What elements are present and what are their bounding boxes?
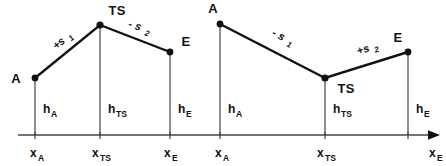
point-marker-e	[405, 49, 412, 56]
height-label-e-group: h E	[178, 102, 192, 119]
right-diagram: A TS E - s 1 +s 2 h A h TS h	[208, 1, 443, 163]
height-label-a-group: h A	[228, 102, 242, 119]
point-marker-e	[167, 49, 174, 56]
point-label-ts: TS	[337, 81, 354, 96]
point-label-a: A	[11, 71, 21, 86]
height-label-e: h	[178, 102, 185, 116]
xtick-label-ts: x	[317, 146, 324, 160]
profile-curve	[220, 24, 408, 78]
xtick-label-a: x	[215, 146, 222, 160]
height-label-ts-subscript: TS	[341, 109, 352, 119]
slope-label-s1-group: +s 1	[50, 28, 77, 54]
point-marker-a	[217, 21, 224, 28]
point-label-a: A	[208, 1, 218, 16]
xtick-label-ts-subscript: TS	[100, 153, 111, 163]
left-diagram: A TS E +s 1 - s 2 h A h TS h	[11, 3, 192, 163]
xtick-label-ts-group: x TS	[317, 146, 336, 163]
height-label-ts-group: h TS	[333, 102, 352, 119]
slope-label-s2-subscript: 2	[372, 45, 380, 55]
height-label-a: h	[43, 102, 50, 116]
slope-label-s1-group: - s 1	[269, 26, 296, 50]
height-label-a-subscript: A	[51, 109, 57, 119]
slope-label-s1-subscript: 1	[285, 40, 294, 50]
xtick-label-ts-group: x TS	[92, 146, 111, 163]
xtick-label-a-group: x A	[215, 146, 229, 163]
height-label-e-subscript: E	[424, 109, 430, 119]
slope-label-s2: - s	[127, 18, 143, 33]
height-label-e-subscript: E	[186, 109, 192, 119]
point-label-ts: TS	[108, 3, 125, 18]
xtick-label-e-group: x E	[429, 146, 443, 163]
height-label-e: h	[416, 102, 423, 116]
height-label-a: h	[228, 102, 235, 116]
height-label-a-subscript: A	[236, 109, 242, 119]
xtick-label-a: x	[30, 146, 37, 160]
slope-label-s1: - s	[270, 26, 287, 43]
xtick-label-e-group: x E	[164, 146, 178, 163]
baseline-axis	[18, 130, 440, 140]
point-marker-ts	[96, 21, 103, 28]
xtick-label-ts-subscript: TS	[325, 153, 336, 163]
xtick-label-a-group: x A	[30, 146, 44, 163]
xtick-label-a-subscript: A	[38, 153, 44, 163]
point-label-e: E	[394, 30, 403, 45]
slope-label-s2-group: +s 2	[355, 39, 380, 60]
reaction-coordinate-diagram: A TS E +s 1 - s 2 h A h TS h	[0, 0, 446, 166]
point-marker-ts	[321, 74, 328, 81]
height-label-ts: h	[333, 102, 340, 116]
xtick-label-e: x	[164, 146, 171, 160]
height-label-ts: h	[108, 102, 115, 116]
slope-label-s2-subscript: 2	[143, 28, 151, 38]
slope-label-s1-subscript: 1	[67, 33, 77, 43]
xtick-label-e-subscript: E	[437, 153, 443, 163]
slope-label-s2: +s	[355, 42, 371, 57]
point-label-e: E	[182, 34, 191, 49]
axis-arrowhead-icon	[428, 130, 440, 140]
xtick-label-ts: x	[92, 146, 99, 160]
height-label-ts-subscript: TS	[116, 109, 127, 119]
xtick-label-a-subscript: A	[223, 153, 229, 163]
height-label-a-group: h A	[43, 102, 57, 119]
xtick-label-e: x	[429, 146, 436, 160]
height-label-e-group: h E	[416, 102, 430, 119]
point-marker-a	[32, 75, 39, 82]
figure-root: A TS E +s 1 - s 2 h A h TS h	[0, 0, 446, 166]
xtick-label-e-subscript: E	[172, 153, 178, 163]
slope-label-s1: +s	[50, 34, 67, 51]
height-label-ts-group: h TS	[108, 102, 127, 119]
